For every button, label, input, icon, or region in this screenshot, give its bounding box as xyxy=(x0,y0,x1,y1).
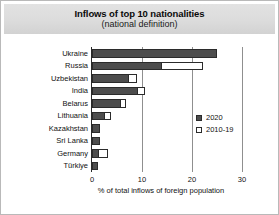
bar[interactable] xyxy=(92,137,100,146)
bar-row: Ukraine xyxy=(92,47,242,60)
bar[interactable] xyxy=(92,99,126,108)
legend-label: 2010-19 xyxy=(206,125,234,134)
bar-row: Russia xyxy=(92,60,242,73)
bar[interactable] xyxy=(92,124,100,133)
legend-item-2020: 2020 xyxy=(196,113,234,122)
category-label: India xyxy=(72,85,88,98)
bar-segment-2010-19 xyxy=(129,74,137,83)
category-label: Türkiye xyxy=(63,160,88,173)
x-tick-label: 10 xyxy=(138,175,146,184)
bar-row: Belarus xyxy=(92,97,242,110)
legend-swatch-filled-icon xyxy=(196,115,202,121)
bar-row: Uzbekistan xyxy=(92,72,242,85)
chart-figure: Inflows of top 10 nationalities (nationa… xyxy=(0,0,279,215)
bar-segment-2020 xyxy=(92,137,100,146)
legend-label: 2020 xyxy=(206,113,223,122)
category-label: Germany xyxy=(57,147,88,160)
x-axis-label: % of total inflows of foreign population xyxy=(86,186,236,195)
bar-segment-2020 xyxy=(92,124,100,133)
page-title: Inflows of top 10 nationalities xyxy=(75,8,205,19)
x-tick-label: 0 xyxy=(90,175,94,184)
bar-row: Germany xyxy=(92,147,242,160)
category-label: Russia xyxy=(65,60,88,73)
legend-swatch-open-icon xyxy=(196,127,202,133)
plot-area: UkraineRussiaUzbekistanIndiaBelarusLithu… xyxy=(92,47,242,172)
bar[interactable] xyxy=(92,74,137,83)
bar-segment-2020 xyxy=(92,99,121,108)
bar-segment-2010-19 xyxy=(138,87,145,96)
chart-legend: 2020 2010-19 xyxy=(196,113,234,134)
category-label: Belarus xyxy=(63,97,88,110)
bar[interactable] xyxy=(92,87,145,96)
category-label: Kazakhstan xyxy=(49,122,88,135)
bar[interactable] xyxy=(92,112,111,121)
bar-segment-2010-19 xyxy=(99,149,108,158)
bar-segment-2020 xyxy=(92,74,129,83)
legend-item-2010-19: 2010-19 xyxy=(196,125,234,134)
bar-segment-2010-19 xyxy=(105,112,111,121)
bar[interactable] xyxy=(92,149,108,158)
bar-row: India xyxy=(92,85,242,98)
category-label: Sri Lanka xyxy=(56,135,88,148)
bar-segment-2010-19 xyxy=(121,99,126,108)
bar-row: Sri Lanka xyxy=(92,135,242,148)
bar-segment-2020 xyxy=(92,112,105,121)
x-tick-label: 30 xyxy=(238,175,246,184)
bar[interactable] xyxy=(92,162,98,171)
bar-segment-2020 xyxy=(92,62,162,71)
bar[interactable] xyxy=(92,62,203,71)
gridline xyxy=(242,47,243,172)
title-banner: Inflows of top 10 nationalities (nationa… xyxy=(4,4,275,34)
x-tick-label: 20 xyxy=(188,175,196,184)
category-label: Ukraine xyxy=(62,47,88,60)
bar[interactable] xyxy=(92,49,217,58)
bar-row: Türkiye xyxy=(92,160,242,173)
category-label: Uzbekistan xyxy=(51,72,88,85)
bar-segment-2020 xyxy=(92,87,138,96)
bar-segment-2020 xyxy=(92,49,217,58)
chart-subtitle: (national definition) xyxy=(101,19,177,30)
category-label: Lithuania xyxy=(58,110,88,123)
bar-segment-2020 xyxy=(92,162,98,171)
bar-segment-2010-19 xyxy=(162,62,203,71)
bar-segment-2020 xyxy=(92,149,99,158)
